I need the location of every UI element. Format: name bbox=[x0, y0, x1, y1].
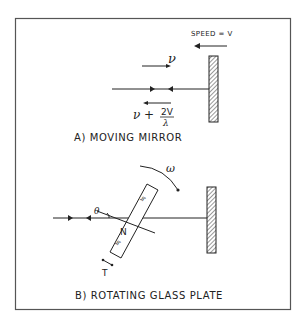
omega-label: ω bbox=[166, 162, 175, 175]
thickness-tick-left bbox=[102, 259, 105, 262]
figure-frame bbox=[16, 19, 291, 310]
panel-b-caption: B) ROTATING GLASS PLATE bbox=[75, 290, 223, 301]
thickness-label: T bbox=[101, 268, 108, 278]
panel-b: ω ≒ ≒ N θ T B) ROTATING GLASS PLATE bbox=[53, 162, 223, 301]
panel-a-caption: A) MOVING MIRROR bbox=[74, 132, 182, 143]
beam-b-forward-arrowhead-icon bbox=[68, 215, 73, 221]
thickness-indicator bbox=[103, 260, 112, 265]
rotation-arrowhead-icon bbox=[176, 188, 179, 191]
incident-frequency-label: ν bbox=[168, 51, 176, 66]
reflected-frequency-denominator: λ bbox=[162, 118, 169, 128]
reflected-frequency-prefix: ν + bbox=[133, 108, 154, 122]
theta-label: θ bbox=[94, 206, 100, 216]
normal-label: N bbox=[120, 227, 127, 237]
panel-a: SPEED = V ν ν + 2V λ A) MOVING MIRROR bbox=[74, 30, 233, 143]
speed-label: SPEED = V bbox=[191, 30, 233, 38]
beam-return-arrowhead-icon bbox=[168, 86, 173, 92]
reflected-arrowhead-icon bbox=[143, 101, 148, 105]
mirror-b bbox=[207, 187, 216, 253]
beam-forward-arrowhead-icon bbox=[150, 86, 155, 92]
reflected-frequency-numerator: 2V bbox=[161, 107, 174, 117]
beam-b-return-arrowhead-icon bbox=[86, 215, 91, 221]
diagram-figure: SPEED = V ν ν + 2V λ A) MOVING MIRROR ω bbox=[0, 0, 305, 323]
speed-arrowhead-icon bbox=[194, 43, 200, 49]
thickness-tick-right bbox=[111, 264, 114, 267]
mirror-a bbox=[209, 56, 218, 122]
